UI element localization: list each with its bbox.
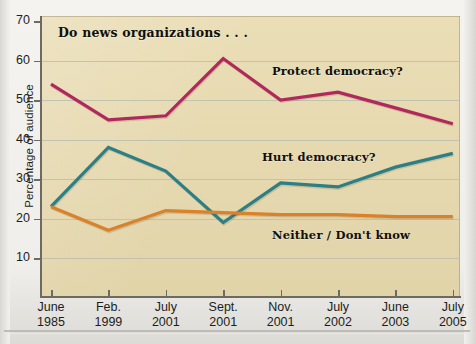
- y-tick-label-30: 30: [4, 171, 30, 185]
- x-tick-mark-2: [166, 290, 168, 297]
- series-label-protect: Protect democracy?: [272, 64, 403, 78]
- x-tick-mark-6: [395, 290, 397, 297]
- y-tick-label-20: 20: [4, 211, 30, 225]
- gridline-30: [41, 179, 460, 180]
- plot-area: [41, 16, 460, 297]
- x-axis-line: [40, 296, 461, 298]
- series-label-hurt: Hurt democracy?: [262, 150, 376, 164]
- y-tick-label-70: 70: [4, 13, 30, 27]
- x-tick-label-7: July2005: [418, 300, 476, 329]
- x-tick-mark-3: [223, 290, 225, 297]
- page-bottom-rule-highlight: [4, 333, 470, 334]
- y-tick-label-60: 60: [4, 53, 30, 67]
- x-tick-mark-5: [338, 290, 340, 297]
- gridline-60: [41, 61, 460, 62]
- y-tick-label-10: 10: [4, 250, 30, 264]
- y-axis-line: [40, 16, 42, 298]
- plot-border-top: [41, 16, 460, 17]
- gridline-40: [41, 140, 460, 141]
- series-label-neither: Neither / Don't know: [272, 228, 410, 242]
- y-tick-label-40: 40: [4, 132, 30, 146]
- gridline-10: [41, 258, 460, 259]
- page-bottom-rule: [4, 330, 470, 332]
- gridline-50: [41, 100, 460, 101]
- chart-title: Do news organizations . . .: [58, 25, 248, 40]
- page-edge-shadow-right: [464, 0, 476, 344]
- plot-border-right: [459, 16, 460, 297]
- y-tick-label-50: 50: [4, 92, 30, 106]
- x-tick-mark-1: [108, 290, 110, 297]
- x-tick-mark-7: [453, 290, 455, 297]
- x-tick-mark-0: [51, 290, 53, 297]
- chart-figure: Percentage of audience 10203040506070 Ju…: [0, 0, 476, 344]
- x-tick-mark-4: [281, 290, 283, 297]
- gridline-20: [41, 219, 460, 220]
